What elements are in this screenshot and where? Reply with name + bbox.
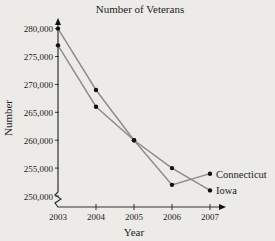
x-tick-label: 2004	[87, 212, 106, 222]
data-point-marker	[94, 105, 98, 109]
y-tick-label: 250,000	[24, 192, 54, 202]
data-point-marker	[208, 188, 212, 192]
line-chart: Number of Veterans Number Year 250,00025…	[0, 0, 275, 241]
x-tick-label: 2005	[125, 212, 144, 222]
y-axis-label: Number	[2, 100, 14, 136]
series-line	[58, 29, 210, 185]
y-tick-label: 280,000	[24, 24, 54, 34]
x-tick-label: 2003	[49, 212, 68, 222]
series-label: Iowa	[216, 185, 237, 196]
series-group: ConnecticutIowa	[56, 26, 267, 196]
y-tick-label: 260,000	[24, 136, 54, 146]
axes: 250,000255,000260,000265,000270,000275,0…	[24, 18, 226, 222]
y-tick-label: 270,000	[24, 80, 54, 90]
series-connecticut: Connecticut	[56, 26, 267, 187]
data-point-marker	[56, 26, 60, 30]
series-line	[58, 45, 210, 190]
x-tick-label: 2007	[201, 212, 220, 222]
data-point-marker	[170, 183, 174, 187]
y-tick-label: 265,000	[24, 108, 54, 118]
data-point-marker	[132, 138, 136, 142]
chart-title: Number of Veterans	[96, 3, 184, 15]
y-tick-label: 275,000	[24, 52, 54, 62]
data-point-marker	[170, 166, 174, 170]
x-axis-arrow-icon	[219, 204, 226, 210]
x-axis-label: Year	[124, 226, 145, 238]
series-label: Connecticut	[216, 169, 267, 180]
x-tick-label: 2006	[163, 212, 182, 222]
data-point-marker	[208, 171, 212, 175]
y-axis-arrow-icon	[55, 18, 61, 25]
data-point-marker	[94, 88, 98, 92]
data-point-marker	[56, 43, 60, 47]
y-tick-label: 255,000	[24, 164, 54, 174]
axis-lines	[55, 22, 222, 207]
